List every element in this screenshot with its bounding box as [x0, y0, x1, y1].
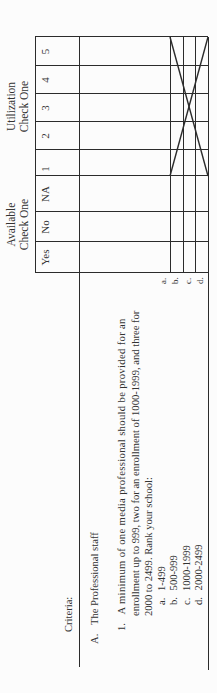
- check-one-label: Check One: [18, 37, 31, 176]
- section-title: The Professional staff: [89, 532, 100, 625]
- option-a: a. 1-499: [157, 566, 168, 605]
- cross-out-mark-icon: [170, 37, 208, 176]
- option-a-label: 1-499: [156, 566, 167, 591]
- available-check-one-header: Available Check One: [5, 176, 31, 273]
- option-d-letter: d.: [193, 597, 204, 605]
- col-4-label: 4: [39, 66, 51, 94]
- option-d-label: 2000-2499: [193, 544, 204, 590]
- col-1-label: 1: [39, 162, 51, 176]
- col-3-label: 3: [39, 94, 51, 122]
- rotated-page-frame: Available Check One Utilization Check On…: [0, 0, 217, 693]
- option-a-letter: a.: [156, 598, 167, 605]
- row-letter-a: a.: [158, 278, 168, 284]
- col-no-left-border: [35, 241, 208, 242]
- col-yes-label: Yes: [39, 242, 51, 273]
- option-b-label: 500-999: [168, 555, 179, 590]
- utilization-check-one-header: Utilization Check One: [5, 37, 31, 176]
- item-text-line-2: enrollment up to 999, two for an enrollm…: [131, 311, 142, 616]
- option-c-label: 1000-1999: [181, 545, 192, 591]
- col-5-label: 5: [39, 37, 51, 66]
- col-yes-left-border: [35, 272, 208, 273]
- utilization-label: Utilization: [5, 37, 18, 176]
- item-number: 1.: [116, 623, 127, 631]
- option-c-letter: c.: [181, 598, 192, 605]
- section-a-heading: A. The Professional staff: [90, 532, 101, 644]
- table-bottom-border: [208, 37, 209, 670]
- option-b: b. 500-999: [169, 555, 180, 605]
- option-b-letter: b.: [168, 597, 179, 605]
- check-one-label: Check One: [18, 176, 31, 273]
- evaluation-form-page: Available Check One Utilization Check On…: [0, 0, 217, 693]
- row-letter-d: d.: [195, 277, 205, 284]
- option-d: d. 2000-2499: [194, 544, 205, 605]
- available-label: Available: [5, 176, 18, 273]
- col-2-label: 2: [39, 122, 51, 150]
- col-no-label: No: [39, 212, 51, 242]
- criteria-heading: Criteria:: [64, 597, 75, 632]
- header-divider: [79, 37, 80, 667]
- item-1-line-1: 1. A minimum of one media professional s…: [117, 318, 128, 631]
- row-letter-c: c.: [183, 278, 193, 284]
- item-text-line-3: 2000 to 2499. Rank your school:: [144, 477, 155, 616]
- table-top-border: [35, 37, 36, 273]
- col-na-left-border: [35, 211, 208, 212]
- row-letter-b: b.: [170, 277, 180, 284]
- section-letter: A.: [89, 634, 100, 644]
- col-na-label: NA: [39, 176, 51, 212]
- item-text-line-1: A minimum of one media professional shou…: [116, 318, 127, 614]
- option-c: c. 1000-1999: [182, 545, 193, 605]
